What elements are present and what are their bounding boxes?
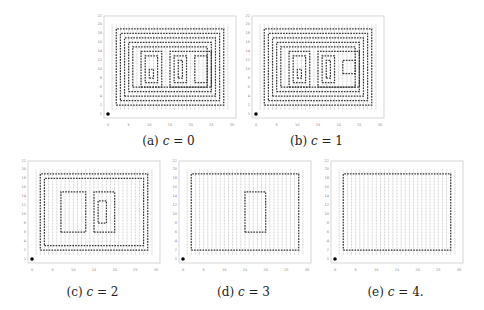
svg-text:10: 10 [147, 123, 151, 127]
svg-text:1: 1 [327, 257, 329, 261]
svg-text:20: 20 [263, 268, 267, 272]
svg-text:30: 30 [154, 268, 158, 272]
svg-text:2: 2 [24, 248, 26, 252]
svg-text:12: 12 [98, 58, 102, 62]
svg-text:8: 8 [248, 76, 250, 80]
svg-text:6: 6 [248, 85, 250, 89]
svg-text:5: 5 [355, 268, 357, 272]
subfigure-e: 0510152025301246810121416182022 (e) c = … [323, 157, 468, 302]
svg-text:10: 10 [325, 212, 329, 216]
svg-text:22: 22 [98, 14, 102, 18]
svg-text:25: 25 [357, 123, 361, 127]
svg-text:15: 15 [243, 268, 247, 272]
svg-text:2: 2 [248, 103, 250, 107]
svg-text:15: 15 [316, 123, 320, 127]
svg-text:10: 10 [295, 123, 299, 127]
svg-text:20: 20 [188, 123, 192, 127]
svg-text:18: 18 [246, 31, 250, 35]
svg-text:30: 30 [457, 268, 461, 272]
svg-text:18: 18 [98, 31, 102, 35]
svg-text:20: 20 [112, 268, 116, 272]
svg-text:20: 20 [22, 167, 26, 171]
plot-d: 0510152025301246810121416182022 [171, 157, 316, 275]
svg-text:6: 6 [100, 85, 102, 89]
svg-text:25: 25 [133, 268, 137, 272]
svg-text:0: 0 [255, 123, 257, 127]
svg-text:6: 6 [175, 230, 177, 234]
plot-a: 0510152025301246810121416182022 [96, 12, 241, 130]
subfigure-c: 0510152025301246810121416182022 (c) c = … [20, 157, 165, 302]
caption-c: (c) c = 2 [20, 285, 165, 299]
svg-text:16: 16 [98, 40, 102, 44]
plot-b: 0510152025301246810121416182022 [244, 12, 389, 130]
svg-text:30: 30 [305, 268, 309, 272]
svg-text:1: 1 [100, 112, 102, 116]
svg-text:25: 25 [436, 268, 440, 272]
svg-text:15: 15 [168, 123, 172, 127]
svg-text:4: 4 [100, 94, 103, 98]
svg-text:0: 0 [31, 268, 33, 272]
svg-text:20: 20 [336, 123, 340, 127]
svg-text:0: 0 [334, 268, 336, 272]
svg-text:12: 12 [325, 203, 329, 207]
svg-text:18: 18 [325, 176, 329, 180]
svg-text:10: 10 [246, 67, 250, 71]
svg-text:4: 4 [248, 94, 251, 98]
svg-text:15: 15 [395, 268, 399, 272]
svg-text:0: 0 [107, 123, 109, 127]
svg-text:10: 10 [71, 268, 75, 272]
svg-text:5: 5 [276, 123, 278, 127]
svg-text:25: 25 [284, 268, 288, 272]
svg-text:22: 22 [246, 14, 250, 18]
svg-text:12: 12 [246, 58, 250, 62]
svg-text:10: 10 [98, 67, 102, 71]
svg-text:16: 16 [173, 185, 177, 189]
subfigure-a: 0510152025301246810121416182022 (a) c = … [96, 12, 241, 152]
svg-text:2: 2 [175, 248, 177, 252]
svg-text:22: 22 [22, 159, 26, 163]
svg-text:20: 20 [415, 268, 419, 272]
svg-text:10: 10 [374, 268, 378, 272]
svg-text:5: 5 [52, 268, 54, 272]
caption-e: (e) c = 4. [323, 285, 468, 299]
svg-text:12: 12 [173, 203, 177, 207]
svg-text:25: 25 [209, 123, 213, 127]
svg-text:22: 22 [325, 159, 329, 163]
svg-text:20: 20 [325, 167, 329, 171]
svg-text:1: 1 [24, 257, 26, 261]
svg-text:2: 2 [100, 103, 102, 107]
svg-text:4: 4 [175, 239, 178, 243]
svg-text:20: 20 [173, 167, 177, 171]
svg-text:16: 16 [22, 185, 26, 189]
plot-c: 0510152025301246810121416182022 [20, 157, 165, 275]
svg-text:16: 16 [325, 185, 329, 189]
caption-b: (b) c = 1 [244, 134, 389, 148]
svg-text:14: 14 [246, 49, 251, 53]
svg-text:0: 0 [182, 268, 184, 272]
svg-text:1: 1 [175, 257, 177, 261]
svg-text:14: 14 [325, 194, 330, 198]
svg-text:14: 14 [98, 49, 103, 53]
svg-text:30: 30 [230, 123, 234, 127]
svg-text:1: 1 [248, 112, 250, 116]
svg-text:12: 12 [22, 203, 26, 207]
svg-text:5: 5 [203, 268, 205, 272]
svg-text:2: 2 [327, 248, 329, 252]
svg-text:6: 6 [327, 230, 329, 234]
svg-text:8: 8 [175, 221, 177, 225]
svg-text:30: 30 [378, 123, 382, 127]
plot-e: 0510152025301246810121416182022 [323, 157, 468, 275]
svg-text:18: 18 [173, 176, 177, 180]
svg-text:14: 14 [22, 194, 27, 198]
subfigure-b: 0510152025301246810121416182022 (b) c = … [244, 12, 389, 152]
svg-text:15: 15 [92, 268, 96, 272]
svg-text:18: 18 [22, 176, 26, 180]
svg-text:8: 8 [327, 221, 329, 225]
svg-text:20: 20 [246, 22, 250, 26]
svg-text:8: 8 [24, 221, 26, 225]
subfigure-d: 0510152025301246810121416182022 (d) c = … [171, 157, 316, 302]
svg-text:14: 14 [173, 194, 178, 198]
caption-a: (a) c = 0 [96, 134, 241, 148]
svg-text:10: 10 [22, 212, 26, 216]
svg-text:6: 6 [24, 230, 26, 234]
